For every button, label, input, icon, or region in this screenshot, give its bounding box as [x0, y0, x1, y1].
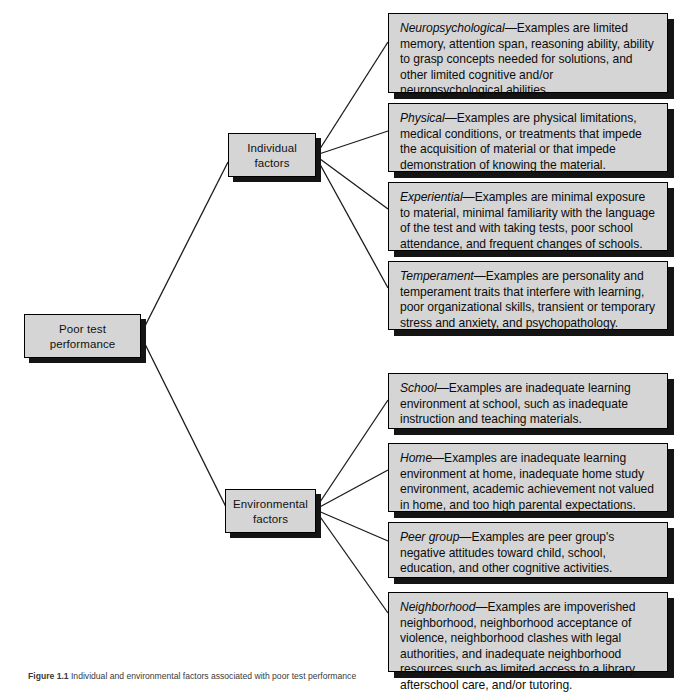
detail-box-physical[interactable]: Physical—Examples are physical limitatio… [388, 103, 668, 172]
detail-term-neuropsychological: Neuropsychological [400, 21, 505, 35]
node-poor-test-performance[interactable]: Poor test performance [24, 314, 141, 358]
detail-dash-school: — [437, 381, 449, 395]
node-poor-test-performance-label: Poor test performance [25, 322, 140, 351]
detail-term-home: Home [400, 451, 432, 465]
edge-environmental-to-home [316, 470, 388, 509]
edge-environmental-to-neighborhood [316, 511, 388, 613]
edge-root-to-environmental [141, 336, 228, 511]
figure-caption-text: Individual and environmental factors ass… [71, 671, 356, 681]
detail-dash-peer-group: — [459, 530, 471, 544]
detail-dash-physical: — [445, 111, 457, 125]
detail-box-experiential[interactable]: Experiential—Examples are minimal exposu… [388, 182, 668, 251]
detail-box-neighborhood-text: Neighborhood—Examples are impoverished n… [400, 600, 657, 694]
detail-dash-temperament: — [474, 269, 486, 283]
detail-box-physical-text: Physical—Examples are physical limitatio… [400, 111, 657, 173]
detail-box-school[interactable]: School—Examples are inadequate learning … [388, 373, 668, 429]
detail-dash-experiential: — [463, 190, 475, 204]
detail-dash-neighborhood: — [475, 600, 487, 614]
node-individual-factors[interactable]: Individual factors [228, 133, 316, 177]
detail-term-experiential: Experiential [400, 190, 463, 204]
figure-caption: Figure 1.1 Individual and environmental … [28, 671, 356, 682]
detail-term-physical: Physical [400, 111, 445, 125]
detail-box-home-text: Home—Examples are inadequate learning en… [400, 451, 657, 513]
edge-root-to-individual [141, 162, 228, 334]
detail-term-neighborhood: Neighborhood [400, 600, 475, 614]
detail-term-school: School [400, 381, 437, 395]
edge-individual-to-physical [316, 131, 388, 155]
detail-box-neighborhood[interactable]: Neighborhood—Examples are impoverished n… [388, 592, 668, 672]
edge-environmental-to-peergroup [316, 510, 388, 541]
edge-environmental-to-school [316, 400, 388, 508]
figure-caption-label: Figure 1.1 [28, 671, 69, 681]
edge-individual-to-temperament [316, 157, 388, 288]
detail-dash-home: — [432, 451, 444, 465]
detail-box-peer-group-text: Peer group—Examples are peer group's neg… [400, 530, 657, 577]
detail-box-temperament-text: Temperament—Examples are personality and… [400, 269, 657, 331]
detail-term-peer-group: Peer group [400, 530, 459, 544]
detail-box-school-text: School—Examples are inadequate learning … [400, 381, 657, 428]
node-environmental-factors[interactable]: Environmental factors [225, 489, 316, 533]
detail-box-temperament[interactable]: Temperament—Examples are personality and… [388, 261, 668, 330]
detail-box-neuropsychological-text: Neuropsychological—Examples are limited … [400, 21, 657, 99]
detail-box-peer-group[interactable]: Peer group—Examples are peer group's neg… [388, 522, 668, 578]
detail-box-neuropsychological[interactable]: Neuropsychological—Examples are limited … [388, 13, 668, 93]
edge-individual-to-experiential [316, 156, 388, 209]
detail-dash-neuropsychological: — [505, 21, 517, 35]
node-individual-factors-label: Individual factors [229, 141, 315, 170]
edge-individual-to-neuropsychological [316, 42, 388, 155]
detail-term-temperament: Temperament [400, 269, 474, 283]
detail-box-experiential-text: Experiential—Examples are minimal exposu… [400, 190, 657, 252]
detail-box-home[interactable]: Home—Examples are inadequate learning en… [388, 443, 668, 512]
node-environmental-factors-label: Environmental factors [226, 497, 315, 526]
